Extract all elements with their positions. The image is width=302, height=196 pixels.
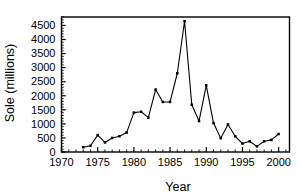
data-point xyxy=(256,145,259,148)
data-point xyxy=(227,123,230,126)
x-tick-label: 1995 xyxy=(230,156,254,168)
x-tick-label: 1970 xyxy=(49,156,73,168)
data-point xyxy=(248,140,251,143)
data-point xyxy=(219,137,222,140)
y-tick-label: 2500 xyxy=(31,75,55,87)
data-point xyxy=(234,135,237,138)
data-point xyxy=(89,145,92,148)
y-tick-label: 2000 xyxy=(31,90,55,102)
x-axis-ticks xyxy=(62,147,286,152)
data-point xyxy=(169,101,172,104)
x-tick-label: 1990 xyxy=(194,156,218,168)
data-point xyxy=(147,116,150,119)
data-point xyxy=(111,137,114,140)
y-tick-label: 3000 xyxy=(31,61,55,73)
x-tick-label: 1985 xyxy=(158,156,182,168)
data-point xyxy=(212,122,215,125)
x-axis-title: Year xyxy=(165,180,190,194)
data-point xyxy=(154,88,157,91)
data-point xyxy=(191,104,194,107)
y-tick-label: 500 xyxy=(37,132,55,144)
x-tick-label: 2000 xyxy=(266,156,290,168)
data-point xyxy=(263,140,266,143)
sole-landings-line-chart: 050010001500200025003000350040004500 197… xyxy=(0,0,302,196)
x-tick-label: 1975 xyxy=(85,156,109,168)
data-point xyxy=(133,111,136,114)
data-series-sole xyxy=(82,20,280,149)
data-point xyxy=(96,134,99,137)
data-point xyxy=(241,142,244,145)
y-axis-tick-labels: 050010001500200025003000350040004500 xyxy=(31,19,55,158)
y-tick-label: 1000 xyxy=(31,118,55,130)
y-tick-label: 4500 xyxy=(31,19,55,31)
x-tick-label: 1980 xyxy=(122,156,146,168)
data-point xyxy=(104,141,107,144)
data-point xyxy=(205,84,208,87)
series-line xyxy=(83,21,278,147)
data-point xyxy=(140,111,143,114)
data-point xyxy=(118,135,121,138)
data-point xyxy=(270,139,273,142)
x-axis-tick-labels: 1970197519801985199019952000 xyxy=(49,156,291,168)
chart-page: 050010001500200025003000350040004500 197… xyxy=(0,0,302,196)
y-axis-title: Sole (millions) xyxy=(3,44,17,123)
data-point xyxy=(198,120,201,123)
y-tick-label: 1500 xyxy=(31,104,55,116)
data-point xyxy=(125,131,128,134)
plot-frame xyxy=(62,17,290,152)
series-markers xyxy=(82,20,280,149)
data-point xyxy=(176,72,179,75)
data-point xyxy=(82,146,85,149)
data-point xyxy=(277,133,280,136)
y-tick-label: 4000 xyxy=(31,33,55,45)
y-tick-label: 3500 xyxy=(31,47,55,59)
data-point xyxy=(183,20,186,23)
data-point xyxy=(162,101,165,104)
